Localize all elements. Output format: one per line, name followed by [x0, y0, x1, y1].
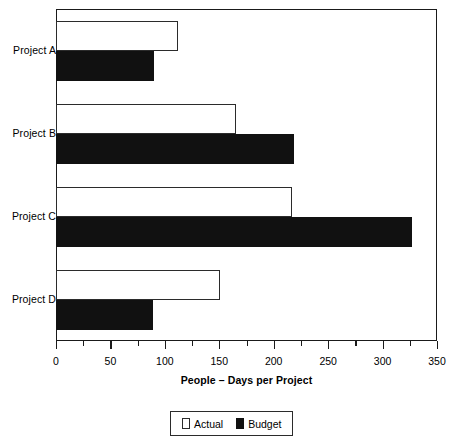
bar-group	[56, 92, 437, 175]
category-label-project-b: Project B	[13, 127, 57, 139]
x-tick-label: 50	[105, 355, 117, 367]
x-tick-major	[56, 341, 57, 349]
x-tick-major	[165, 341, 166, 349]
x-tick-label: 0	[53, 355, 59, 367]
bar-project-c-actual	[56, 187, 292, 217]
bar-project-b-actual	[56, 104, 236, 134]
x-tick-minor	[247, 341, 248, 346]
bar-project-a-actual	[56, 21, 178, 51]
bars-layer	[56, 9, 437, 341]
category-label-project-a: Project A	[13, 44, 56, 56]
bar-group	[56, 258, 437, 341]
x-tick-major	[383, 341, 384, 349]
legend-entry-budget: Budget	[236, 418, 281, 430]
x-tick-minor	[410, 341, 411, 346]
x-tick-label: 100	[156, 355, 174, 367]
x-axis-title: People – Days per Project	[56, 374, 437, 386]
legend-swatch-actual-icon	[182, 418, 190, 429]
bar-project-d-budget	[56, 300, 153, 330]
legend-label-actual: Actual	[194, 418, 223, 430]
x-axis-tick-labels: 050100150200250300350	[56, 355, 437, 371]
x-tick-label: 150	[211, 355, 229, 367]
x-tick-minor	[355, 341, 356, 346]
x-tick-major	[219, 341, 220, 349]
x-tick-major	[110, 341, 111, 349]
x-tick-minor	[138, 341, 139, 346]
x-tick-minor	[192, 341, 193, 346]
legend-label-budget: Budget	[248, 418, 281, 430]
x-tick-minor	[301, 341, 302, 346]
x-tick-label: 300	[374, 355, 392, 367]
bar-project-c-budget	[56, 217, 412, 247]
x-axis-ticks	[56, 341, 437, 350]
legend-swatch-budget-icon	[236, 418, 244, 429]
bar-group	[56, 175, 437, 258]
bar-project-d-actual	[56, 270, 220, 300]
category-label-project-d: Project D	[12, 293, 56, 305]
x-tick-label: 250	[319, 355, 337, 367]
x-tick-major	[437, 341, 438, 349]
x-tick-label: 200	[265, 355, 283, 367]
category-label-project-c: Project C	[12, 210, 56, 222]
bar-project-a-budget	[56, 51, 154, 81]
x-tick-minor	[83, 341, 84, 346]
x-tick-major	[328, 341, 329, 349]
chart-legend: Actual Budget	[170, 411, 293, 436]
legend-entry-actual: Actual	[182, 418, 223, 430]
x-tick-label: 350	[428, 355, 446, 367]
bar-group	[56, 9, 437, 92]
x-tick-major	[274, 341, 275, 349]
bar-project-b-budget	[56, 134, 294, 164]
